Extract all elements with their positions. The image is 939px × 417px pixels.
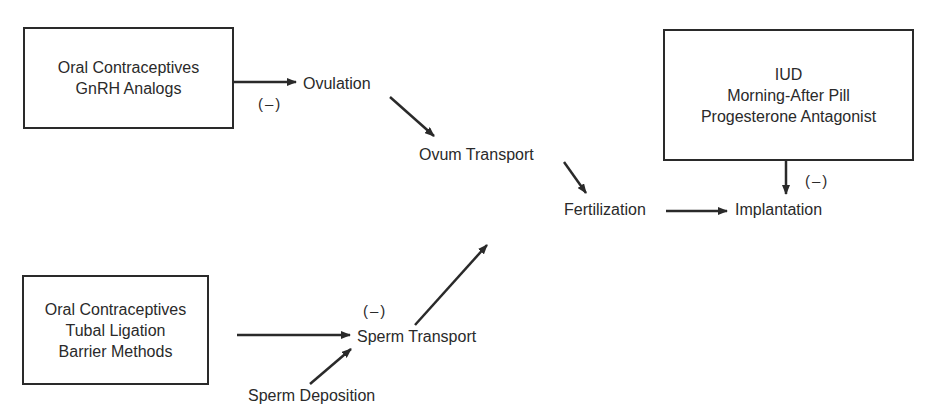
box-line: Progesterone Antagonist xyxy=(701,106,876,127)
node-fertilization: Fertilization xyxy=(564,200,646,220)
box-line: Oral Contraceptives xyxy=(45,299,186,320)
box-line: Barrier Methods xyxy=(59,341,173,362)
arrow-ovulation-to-ovum-transport xyxy=(390,97,434,136)
implantation-inhibitors-box: IUD Morning-After Pill Progesterone Anta… xyxy=(663,29,914,161)
box-line: GnRH Analogs xyxy=(76,78,182,99)
node-sperm-deposition: Sperm Deposition xyxy=(248,386,375,406)
arrow-sperm-transport-to-fertilization xyxy=(415,245,487,325)
box-line: Morning-After Pill xyxy=(727,85,850,106)
inhibition-mark-implantation: (–) xyxy=(805,172,829,189)
box-line: Oral Contraceptives xyxy=(58,57,199,78)
inhibition-mark-sperm-transport: (–) xyxy=(363,302,387,319)
sperm-transport-inhibitors-box: Oral Contraceptives Tubal Ligation Barri… xyxy=(22,275,209,385)
ovulation-inhibitors-box: Oral Contraceptives GnRH Analogs xyxy=(23,27,234,129)
node-sperm-transport: Sperm Transport xyxy=(357,327,476,347)
node-ovulation: Ovulation xyxy=(303,74,371,94)
inhibition-mark-ovulation: (–) xyxy=(258,95,282,112)
node-ovum-transport: Ovum Transport xyxy=(419,145,534,165)
node-implantation: Implantation xyxy=(735,200,822,220)
box-line: Tubal Ligation xyxy=(66,320,166,341)
arrow-sperm-deposition-to-sperm-transport xyxy=(310,349,351,384)
box-line: IUD xyxy=(775,64,803,85)
arrow-ovum-transport-to-fertilization xyxy=(564,162,586,193)
